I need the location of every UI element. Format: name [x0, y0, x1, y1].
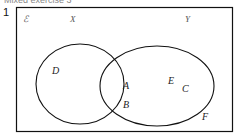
element-a: A: [122, 80, 130, 91]
set-x-label: X: [69, 14, 76, 24]
venn-diagram: ℰ X Y D A B E C F: [0, 0, 236, 135]
set-x-ellipse: [36, 44, 124, 124]
element-c: C: [182, 83, 189, 94]
element-e: E: [167, 75, 174, 86]
universal-set-label: ℰ: [23, 14, 30, 24]
element-d: D: [51, 65, 60, 76]
element-f: F: [201, 111, 209, 122]
set-y-ellipse: [100, 46, 214, 126]
set-y-label: Y: [185, 14, 191, 24]
venn-diagram-page: Mixed exercise 3 1 ℰ X Y D A B E C F: [0, 0, 236, 135]
element-b: B: [123, 99, 129, 110]
